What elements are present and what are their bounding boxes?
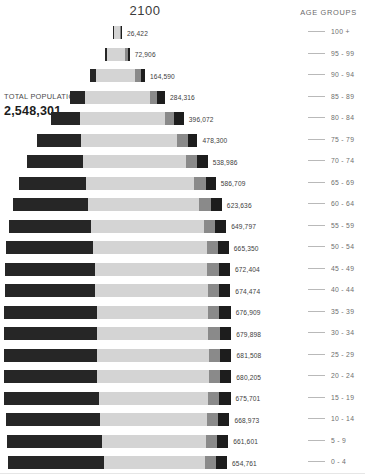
legend-item-label: 0 - 4	[331, 458, 361, 465]
age-group-bar[interactable]	[4, 306, 230, 319]
age-group-bar[interactable]	[5, 263, 230, 276]
age-group-bar[interactable]	[5, 284, 231, 297]
bar-container: 586,709	[0, 173, 235, 195]
pyramid-row: 675,701	[0, 388, 290, 410]
age-group-bar[interactable]	[4, 349, 232, 362]
bar-segment-right-dark	[141, 69, 145, 82]
age-group-bar[interactable]	[9, 220, 226, 233]
legend-item-label: 25 - 29	[331, 351, 361, 358]
bar-segment-left-dark	[4, 392, 99, 405]
bar-container: 654,761	[0, 452, 235, 474]
age-group-bar[interactable]	[6, 413, 230, 426]
legend-item-label: 65 - 69	[331, 179, 361, 186]
legend-item[interactable]: 70 - 74	[292, 150, 365, 172]
legend-item[interactable]: 95 - 99	[292, 43, 365, 65]
legend: AGE GROUPS 100 +95 - 9990 - 9485 - 8980 …	[292, 8, 365, 474]
bar-segment-left-dark	[5, 284, 95, 297]
age-group-bar[interactable]	[113, 26, 122, 39]
age-group-bar[interactable]	[6, 241, 229, 254]
legend-item-label: 85 - 89	[331, 93, 361, 100]
bar-segment-body	[97, 370, 209, 383]
bar-value-label: 478,300	[203, 137, 228, 144]
bar-segment-right-dark	[216, 456, 227, 469]
legend-item[interactable]: 40 - 44	[292, 279, 365, 301]
bar-segment-mid	[205, 456, 216, 469]
bar-container: 675,701	[0, 388, 235, 410]
legend-item-label: 90 - 94	[331, 71, 361, 78]
legend-item[interactable]: 65 - 69	[292, 172, 365, 194]
age-group-bar[interactable]	[27, 155, 207, 168]
bar-segment-right-dark	[197, 155, 208, 168]
bar-segment-right-dark	[220, 349, 231, 362]
age-group-bar[interactable]	[37, 134, 197, 147]
bar-container: 396,072	[0, 108, 235, 130]
legend-item[interactable]: 0 - 4	[292, 451, 365, 473]
legend-item[interactable]: 10 - 14	[292, 408, 365, 430]
legend-item[interactable]: 85 - 89	[292, 86, 365, 108]
pyramid-row: 164,590	[0, 65, 290, 87]
bar-value-label: 72,906	[135, 51, 156, 58]
legend-item[interactable]: 35 - 39	[292, 301, 365, 323]
bar-segment-right-dark	[211, 198, 221, 211]
bar-segment-right-dark	[174, 112, 183, 125]
legend-item[interactable]: 45 - 49	[292, 258, 365, 280]
bar-container: 668,973	[0, 409, 235, 431]
bar-value-label: 661,601	[233, 438, 258, 445]
legend-rule-icon	[308, 418, 325, 419]
bar-value-label: 649,797	[231, 223, 256, 230]
pyramid-rows: 26,42272,906164,590284,316396,072478,300…	[0, 22, 290, 474]
bar-segment-right-dark	[219, 306, 230, 319]
age-group-bar[interactable]	[4, 392, 230, 405]
bar-container: 681,508	[0, 345, 235, 367]
legend-item[interactable]: 90 - 94	[292, 64, 365, 86]
bar-segment-mid	[209, 370, 220, 383]
bar-container: 679,898	[0, 323, 235, 345]
bar-container: 676,909	[0, 302, 235, 324]
legend-rule-icon	[308, 182, 325, 183]
legend-item[interactable]: 15 - 19	[292, 387, 365, 409]
legend-item[interactable]: 80 - 84	[292, 107, 365, 129]
bar-segment-body	[96, 69, 135, 82]
legend-item[interactable]: 5 - 9	[292, 430, 365, 452]
legend-rule-icon	[308, 160, 325, 161]
age-group-bar[interactable]	[90, 69, 145, 82]
bar-container: 478,300	[0, 130, 235, 152]
age-group-bar[interactable]	[13, 198, 222, 211]
legend-item[interactable]: 100 +	[292, 21, 365, 43]
age-group-bar[interactable]	[7, 435, 228, 448]
bar-segment-body	[97, 306, 208, 319]
bar-container: 680,205	[0, 366, 235, 388]
bar-segment-mid	[208, 306, 219, 319]
bar-segment-mid	[194, 177, 206, 190]
legend-item[interactable]: 20 - 24	[292, 365, 365, 387]
bar-segment-left-dark	[6, 241, 93, 254]
legend-rule-icon	[308, 397, 325, 398]
legend-item[interactable]: 75 - 79	[292, 129, 365, 151]
legend-item[interactable]: 55 - 59	[292, 215, 365, 237]
pyramid-row: 668,973	[0, 409, 290, 431]
age-group-bar[interactable]	[4, 370, 232, 383]
age-group-bar[interactable]	[19, 177, 215, 190]
legend-item-label: 80 - 84	[331, 114, 361, 121]
age-group-bar[interactable]	[70, 91, 165, 104]
legend-item[interactable]: 25 - 29	[292, 344, 365, 366]
pyramid-row: 538,986	[0, 151, 290, 173]
bar-segment-body	[97, 349, 209, 362]
legend-rule-icon	[308, 31, 325, 32]
bar-value-label: 396,072	[189, 115, 214, 122]
legend-item[interactable]: 50 - 54	[292, 236, 365, 258]
legend-rule-icon	[308, 117, 325, 118]
bar-container: 674,474	[0, 280, 235, 302]
age-group-bar[interactable]	[105, 48, 129, 61]
bar-segment-left-dark	[51, 112, 80, 125]
bar-segment-body	[83, 155, 186, 168]
age-group-bar[interactable]	[8, 456, 227, 469]
legend-item[interactable]: 60 - 64	[292, 193, 365, 215]
age-group-bar[interactable]	[51, 112, 184, 125]
bar-segment-mid	[208, 284, 219, 297]
legend-rule-icon	[308, 268, 325, 269]
age-group-bar[interactable]	[4, 327, 231, 340]
legend-item-label: 60 - 64	[331, 200, 361, 207]
bar-container: 538,986	[0, 151, 235, 173]
legend-item[interactable]: 30 - 34	[292, 322, 365, 344]
